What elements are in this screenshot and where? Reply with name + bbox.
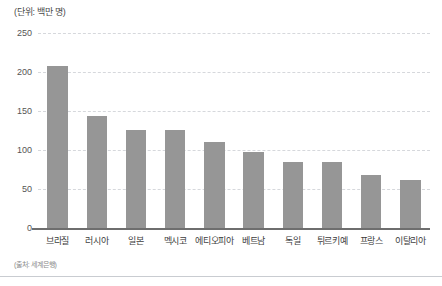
source-note: (출처: 세계은행) [14,259,57,269]
bar [361,175,381,228]
bar-slot [47,33,67,228]
bar [243,152,263,228]
x-axis-labels: 브라질러시아일본멕시코에티오피아베트남독일튀르키예프랑스이탈리아 [38,234,430,248]
y-axis-tick-label: 100 [17,145,32,155]
bottom-divider [0,276,442,277]
bar [400,180,420,228]
bar-slot [322,33,342,228]
x-axis-tick-label: 프랑스 [360,234,383,247]
plot-area: 050100150200250 [38,33,430,228]
x-axis-tick-label: 일본 [128,234,143,247]
bar [47,66,67,228]
bar-slot [87,33,107,228]
bar-slot [283,33,303,228]
x-axis-tick-label: 베트남 [242,234,265,247]
bar-slot [165,33,185,228]
chart-figure: (단위: 백만 명) 050100150200250 브라질러시아일본멕시코에티… [0,0,442,286]
bar [126,130,146,228]
unit-note: (단위: 백만 명) [14,5,66,18]
bar [87,116,107,228]
bar [204,142,224,228]
y-axis-tick-label: 50 [22,184,32,194]
x-axis-tick-label: 독일 [285,234,300,247]
x-axis-tick-label: 에티오피아 [195,234,234,247]
bar-series [38,33,430,228]
bar-slot [400,33,420,228]
bar-slot [243,33,263,228]
bar [165,130,185,228]
x-axis-tick-label: 이탈리아 [395,234,426,247]
bar-slot [126,33,146,228]
bar [283,162,303,228]
y-axis-tick-label: 200 [17,67,32,77]
x-axis-tick-label: 튀르키예 [317,234,348,247]
x-axis-tick-label: 브라질 [46,234,69,247]
x-axis-line [32,228,430,230]
x-axis-tick-label: 러시아 [85,234,108,247]
x-axis-tick-label: 멕시코 [164,234,187,247]
y-axis-tick-label: 250 [17,28,32,38]
bar [322,162,342,228]
bar-slot [204,33,224,228]
bar-slot [361,33,381,228]
y-axis-tick-label: 150 [17,106,32,116]
